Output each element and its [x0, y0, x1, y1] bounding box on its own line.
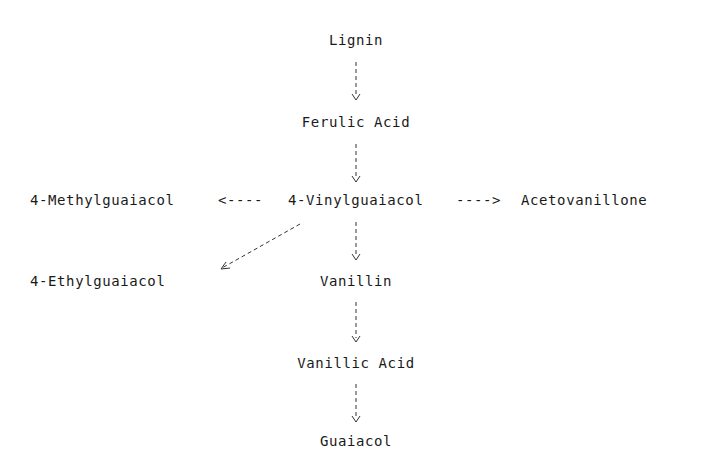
- node-4-vinylguaiacol: 4-Vinylguaiacol: [288, 192, 423, 208]
- edges-layer: [0, 0, 705, 471]
- arrow-ferulic-vinylguaiacol: [352, 144, 360, 182]
- node-acetovanillone: Acetovanillone: [521, 192, 647, 208]
- node-lignin: Lignin: [329, 32, 383, 48]
- node-vanillic-acid: Vanillic Acid: [297, 355, 414, 371]
- node-vanillin: Vanillin: [320, 273, 392, 289]
- arrow-to-methylguaiacol: <----: [218, 192, 263, 208]
- arrow-lignin-ferulic: [352, 62, 360, 100]
- arrow-vanillin-vanillic: [352, 302, 360, 342]
- arrow-to-acetovanillone: ---->: [456, 192, 501, 208]
- node-4-ethylguaiacol: 4-Ethylguaiacol: [30, 273, 165, 289]
- arrow-vanillic-guaiacol: [352, 384, 360, 422]
- arrow-vinylguaiacol-ethylguaiacol: [221, 224, 300, 269]
- node-4-methylguaiacol: 4-Methylguaiacol: [30, 192, 174, 208]
- arrow-vinylguaiacol-vanillin: [352, 222, 360, 260]
- node-ferulic-acid: Ferulic Acid: [302, 114, 410, 130]
- node-guaiacol: Guaiacol: [320, 433, 392, 449]
